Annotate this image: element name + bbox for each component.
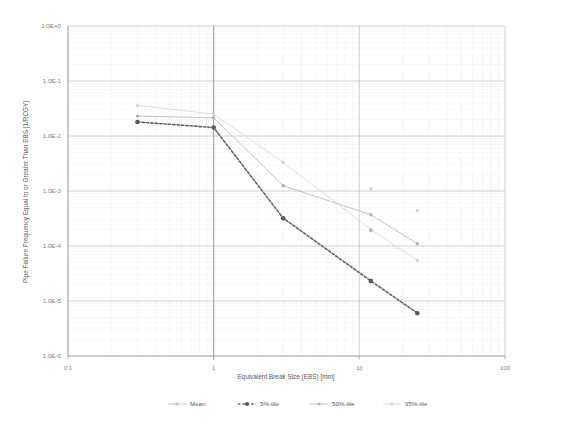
data-point	[416, 259, 419, 262]
data-point	[136, 104, 139, 107]
y-tick-label: 1.0E-1	[43, 77, 62, 84]
x-tick-label: 1	[212, 364, 216, 371]
data-point	[281, 216, 286, 221]
legend-swatch-marker	[317, 402, 320, 405]
legend-label: 95%-tile	[405, 400, 428, 407]
x-tick-label: 100	[500, 364, 511, 371]
data-point	[415, 311, 420, 316]
data-point	[281, 184, 284, 187]
y-tick-label: 1.0E-3	[43, 187, 62, 194]
y-tick-label: 1.0E+0	[41, 22, 61, 29]
legend-label: Mean	[190, 400, 206, 407]
data-point	[281, 161, 284, 164]
y-tick-label: 1.0E-2	[43, 132, 62, 139]
data-point	[212, 112, 215, 115]
legend-swatch-marker	[390, 402, 393, 405]
y-tick-label: 1.0E-6	[43, 352, 62, 359]
y-tick-label: 1.0E-5	[43, 297, 62, 304]
legend-label: 5%-tile	[260, 400, 279, 407]
x-tick-label: 0.1	[64, 364, 73, 371]
legend-swatch-marker	[245, 402, 249, 406]
y-tick-label: 1.0E-4	[43, 242, 62, 249]
data-point	[369, 229, 372, 232]
data-point	[212, 116, 215, 119]
log-log-line-chart: 0.1110100 1.0E+01.0E-11.0E-21.0E-31.0E-4…	[0, 0, 563, 431]
legend-swatch-marker	[175, 402, 178, 405]
data-point	[416, 242, 419, 245]
data-point	[416, 209, 419, 212]
x-tick-label: 10	[356, 364, 363, 371]
data-point	[369, 279, 374, 284]
data-point	[369, 187, 372, 190]
data-point	[136, 114, 139, 117]
data-point	[211, 125, 216, 130]
data-point	[135, 120, 140, 125]
chart-figure: 0.1110100 1.0E+01.0E-11.0E-21.0E-31.0E-4…	[0, 0, 563, 431]
y-axis-title: Pipe Failure Frequency Equal to or Great…	[22, 101, 30, 283]
x-axis-title: Equivalent Break Size (EBS) [mm]	[237, 373, 335, 381]
data-point	[369, 213, 372, 216]
legend-label: 50%-tile	[332, 400, 355, 407]
